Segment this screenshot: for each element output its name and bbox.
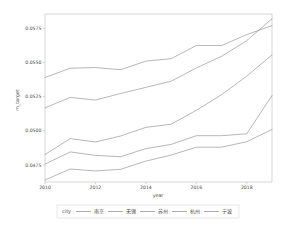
x-tick-label: 2018 [241,185,253,190]
y-tick-label: 0.0475 [25,163,41,168]
x-tick-label: 2014 [140,185,152,190]
legend-title: city [62,208,71,215]
y-tick-label: 0.0575 [25,26,41,31]
x-tick-label: 2010 [39,185,51,190]
x-axis-title: year [153,193,164,198]
figure-background [0,0,288,229]
x-tick-label: 2016 [190,185,202,190]
legend-label-南京[interactable]: 南京 [94,208,104,215]
legend-label-苏州[interactable]: 苏州 [158,208,168,215]
y-tick-label: 0.0525 [25,94,41,99]
x-tick-label: 2012 [90,185,102,190]
legend-label-无锡[interactable]: 无锡 [126,208,136,215]
legend-label-杭州[interactable]: 杭州 [190,208,200,215]
legend-label-宁波[interactable]: 宁波 [222,208,232,215]
line-chart-figure: 0.04750.05000.05250.05500.0575 201020122… [0,0,288,229]
y-tick-label: 0.0500 [25,128,41,133]
y-tick-label: 0.0550 [25,60,41,65]
